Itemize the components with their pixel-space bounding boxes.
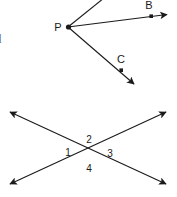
angle-label-1: 1: [65, 147, 71, 158]
vertex-point-p-dot: [66, 24, 71, 29]
angle-figure-group: P B C: [54, 0, 167, 84]
label-point-c: C: [117, 53, 125, 65]
point-c-dot: [119, 68, 123, 72]
intersecting-lines-figure-group: 1 2 3 4: [10, 112, 166, 184]
point-b-dot: [149, 14, 153, 18]
geometry-drawing-canvas: P B C 1 2 3 4: [0, 0, 177, 197]
geometry-figure-sheet: e d P B C 1 2 3 4: [0, 0, 177, 197]
angle-label-2: 2: [86, 134, 92, 145]
label-point-p: P: [54, 21, 61, 33]
label-point-b: B: [145, 0, 152, 11]
angle-label-4: 4: [86, 163, 92, 174]
angle-label-3: 3: [107, 148, 113, 159]
